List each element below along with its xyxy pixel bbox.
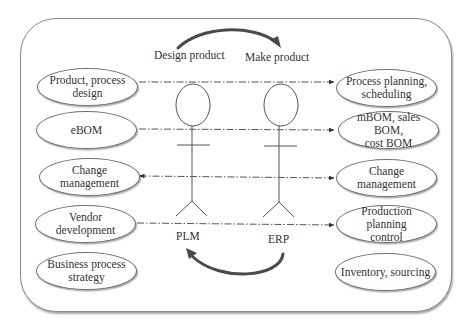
node-process-planning-scheduling: Process planning, scheduling	[336, 69, 437, 107]
make-product-label: Make product	[245, 51, 309, 63]
node-vendor-development: Vendor development	[35, 205, 136, 243]
node-business-process-strategy: Business process strategy	[36, 252, 137, 290]
erp-actor-icon	[263, 84, 298, 217]
node-change-management-right: Change management	[336, 159, 437, 197]
design-product-label: Design product	[154, 49, 225, 61]
node-mbom-sales-cost-bom: mBOM, sales BOM, cost BOM	[338, 111, 439, 149]
plm-erp-diagram: Design product Make product PLM ERP Prod…	[0, 0, 470, 329]
plm-actor-icon	[176, 84, 210, 216]
node-change-management-left: Change management	[39, 158, 140, 196]
node-ebom: eBOM	[36, 111, 137, 149]
erp-label: ERP	[268, 233, 289, 245]
node-production-planning-control: Production planning control	[336, 205, 437, 243]
node-product-process-design: Product, process design	[37, 68, 138, 106]
plm-label: PLM	[176, 230, 200, 242]
node-inventory-sourcing: Inventory, sourcing	[335, 253, 436, 291]
connector-change-management	[140, 176, 334, 178]
top-flow-arrow-icon	[178, 30, 281, 48]
connector-vendor-to-production	[137, 223, 334, 225]
bottom-flow-arrow-icon	[186, 248, 283, 274]
connector-ebom-to-mbom	[139, 129, 334, 130]
